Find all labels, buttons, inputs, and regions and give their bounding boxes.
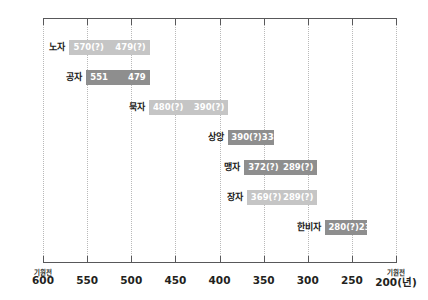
bar-공자[interactable]: 551479 <box>86 70 150 85</box>
tick-bottom-450 <box>175 256 176 263</box>
tick-top-300 <box>308 18 309 25</box>
bar-end-value: 289(?) <box>283 193 313 202</box>
bar-묵자[interactable]: 480(?)390(?) <box>149 100 228 115</box>
bar-장자[interactable]: 369(?)289(?) <box>247 190 318 205</box>
bar-start-value: 570(?) <box>73 43 103 52</box>
tick-top-550 <box>87 18 88 25</box>
bar-end-value: 233 <box>359 223 377 232</box>
bar-맹자[interactable]: 372(?)289(?) <box>244 160 317 175</box>
tick-top-450 <box>175 18 176 25</box>
tick-bottom-350 <box>264 256 265 263</box>
bar-end-value: 289(?) <box>283 163 313 172</box>
bar-end-value: 479 <box>128 73 146 82</box>
tick-bottom-250 <box>352 256 353 263</box>
tick-bottom-500 <box>131 256 132 263</box>
tick-top-400 <box>220 18 221 25</box>
bar-start-value: 390(?) <box>231 133 261 142</box>
tick-bottom-200 <box>396 256 397 263</box>
bar-end-value: 390(?) <box>194 103 224 112</box>
tick-top-600 <box>43 18 44 25</box>
bar-노자[interactable]: 570(?)479(?) <box>69 40 149 55</box>
tick-bottom-550 <box>87 256 88 263</box>
bar-한비자[interactable]: 280(?)233 <box>325 220 366 235</box>
bar-end-value: 338 <box>262 133 280 142</box>
bar-start-value: 551 <box>90 73 108 82</box>
bar-label-묵자: 묵자 <box>65 100 145 115</box>
bar-start-value: 369(?) <box>251 193 281 202</box>
bar-end-value: 479(?) <box>115 43 145 52</box>
bar-label-상앙: 상앙 <box>144 130 224 145</box>
tick-label-200: 200(년) <box>361 274 428 289</box>
tick-top-500 <box>131 18 132 25</box>
tick-bottom-300 <box>308 256 309 263</box>
timeline-chart: 기원전600550500450400350300250기원전200(년)570(… <box>0 0 428 300</box>
tick-bottom-600 <box>43 256 44 263</box>
tick-top-250 <box>352 18 353 25</box>
bar-label-한비자: 한비자 <box>241 220 321 235</box>
bar-label-맹자: 맹자 <box>160 160 240 175</box>
bar-start-value: 280(?) <box>328 223 358 232</box>
tick-top-350 <box>264 18 265 25</box>
bar-start-value: 372(?) <box>248 163 278 172</box>
bar-start-value: 480(?) <box>153 103 183 112</box>
bar-label-노자: 노자 <box>0 40 65 55</box>
bar-상앙[interactable]: 390(?)338 <box>228 130 274 145</box>
tick-top-200 <box>396 18 397 25</box>
tick-bottom-400 <box>220 256 221 263</box>
bar-label-공자: 공자 <box>2 70 82 85</box>
gridline-200 <box>396 18 397 262</box>
bar-label-장자: 장자 <box>163 190 243 205</box>
